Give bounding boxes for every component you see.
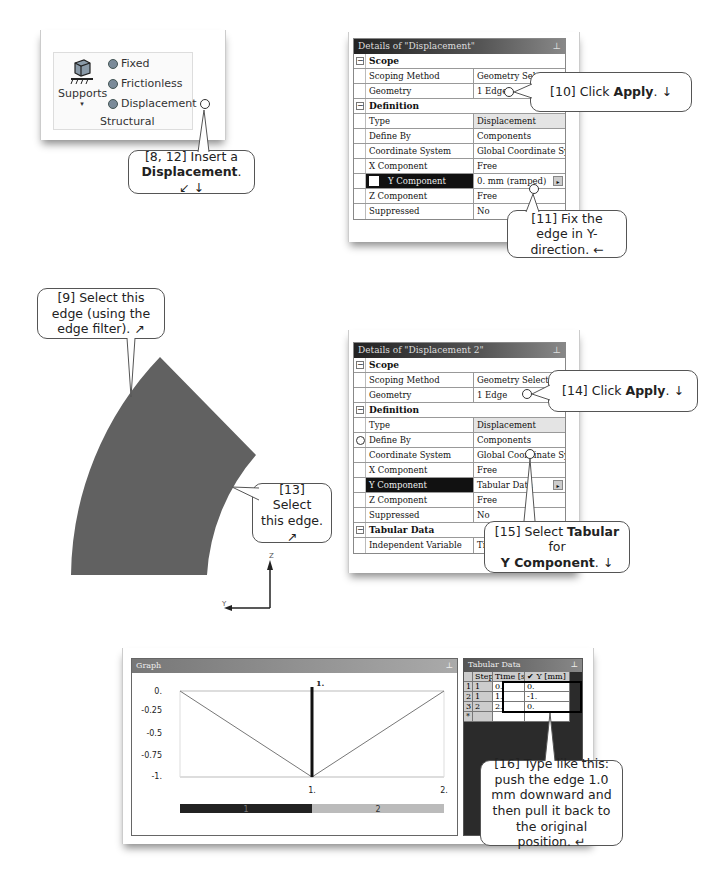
supports-icon xyxy=(68,59,96,85)
fixed-label: Fixed xyxy=(121,57,150,70)
callout-select-edge-filter: [9] Select this edge (using the edge fil… xyxy=(37,288,165,339)
svg-text:Y: Y xyxy=(221,600,227,608)
row-define-by[interactable]: Define ByComponents xyxy=(354,433,565,448)
svg-text:-0.5: -0.5 xyxy=(146,729,162,738)
ribbon-item-fixed[interactable]: Fixed xyxy=(108,57,150,70)
callout-text: [16] Type like this: push the edge 1.0 m… xyxy=(489,756,614,850)
section-definition[interactable]: −Definition xyxy=(354,403,565,418)
callout-text: [13] Select this edge. ↗ xyxy=(261,482,323,545)
callout-tail xyxy=(195,108,215,153)
checkbox[interactable] xyxy=(369,176,379,186)
dropdown-arrow-icon: ▾ xyxy=(58,100,106,108)
flyout-arrow-button[interactable]: ▸ xyxy=(553,176,563,186)
row-coordinate-system[interactable]: Coordinate SystemGlobal Coordinate Syste… xyxy=(354,144,565,159)
fixed-icon xyxy=(108,59,118,69)
callout-suffix: . ↓ xyxy=(654,84,672,99)
callout-text: [11] Fix the edge in Y-direction. ← xyxy=(516,211,618,258)
table-row-new[interactable]: * xyxy=(464,712,582,722)
svg-text:0.: 0. xyxy=(154,687,162,696)
callout-tail xyxy=(513,82,533,102)
collapse-icon[interactable]: − xyxy=(356,406,364,414)
flyout-arrow-button[interactable]: ▸ xyxy=(553,480,563,490)
svg-text:1.: 1. xyxy=(316,678,325,688)
callout-insert-displacement: [8, 12] Insert a Displacement. ↙ ↓ xyxy=(128,150,255,194)
callout-text: for xyxy=(548,539,565,554)
collapse-icon[interactable]: − xyxy=(356,361,364,369)
callout-type-tabular: [16] Type like this: push the edge 1.0 m… xyxy=(480,760,623,846)
tabular-title: Tabular Data xyxy=(468,660,521,671)
svg-text:1.: 1. xyxy=(308,786,316,795)
callout-bold: Displacement xyxy=(141,164,237,179)
graph-title-bar: Graph⊥ xyxy=(132,659,457,673)
displacement-label: Displacement xyxy=(121,97,197,110)
callout-text: [15] Select xyxy=(495,524,567,539)
pin-icon[interactable]: ⊥ xyxy=(445,661,453,671)
highlight-box xyxy=(502,681,582,713)
group-label-structural: Structural xyxy=(100,115,154,128)
callout-fix-y: [11] Fix the edge in Y-direction. ← xyxy=(507,210,627,258)
row-define-by[interactable]: Define ByComponents xyxy=(354,129,565,144)
callout-tail xyxy=(230,484,260,508)
supports-button[interactable]: Supports ▾ xyxy=(58,59,106,111)
ribbon-structural-group: Supports ▾ Fixed Frictionless Displaceme… xyxy=(53,52,193,130)
callout-bold: Y Component xyxy=(501,555,595,570)
callout-bold: Apply xyxy=(613,84,653,99)
callout-click-apply-1: [10] Click Apply. ↓ xyxy=(530,72,692,112)
frictionless-icon xyxy=(108,79,118,89)
row-type[interactable]: TypeDisplacement xyxy=(354,114,565,129)
geometry-viewport[interactable]: Z Y xyxy=(20,330,350,630)
callout-suffix: . ↓ xyxy=(595,555,613,570)
frictionless-label: Frictionless xyxy=(121,77,183,90)
section-scope[interactable]: −Scope xyxy=(354,54,565,69)
callout-tail xyxy=(531,383,551,403)
svg-text:2: 2 xyxy=(375,805,380,814)
axis-triad: Z Y xyxy=(221,552,274,611)
svg-text:-1.: -1. xyxy=(151,772,162,781)
supports-label: Supports xyxy=(58,87,106,100)
details-title-bar: Details of "Displacement 2"⊥ xyxy=(354,343,565,358)
graph-plot[interactable]: 0. -0.25 -0.5 -0.75 -1. 1. 1. 2. 1 2 xyxy=(132,673,457,835)
callout-bold: Apply xyxy=(625,383,665,398)
callout-suffix: . ↓ xyxy=(666,383,684,398)
graph-title: Graph xyxy=(136,661,161,671)
collapse-icon[interactable]: − xyxy=(356,102,364,110)
row-x-component[interactable]: X ComponentFree xyxy=(354,159,565,174)
callout-select-tabular: [15] Select Tabular for Y Component. ↓ xyxy=(484,521,630,573)
pin-icon[interactable]: ⊥ xyxy=(570,660,578,671)
collapse-icon[interactable]: − xyxy=(356,57,364,65)
callout-bold: Tabular xyxy=(567,524,619,539)
ribbon-item-frictionless[interactable]: Frictionless xyxy=(108,77,183,90)
details-title: Details of "Displacement 2" xyxy=(358,345,484,356)
callout-tail xyxy=(521,458,541,522)
svg-text:-0.25: -0.25 xyxy=(141,706,162,715)
pin-icon[interactable]: ⊥ xyxy=(553,345,561,356)
callout-tail xyxy=(543,712,557,762)
callout-text: [9] Select this edge (using the edge fil… xyxy=(46,290,156,337)
callout-text: [14] Click xyxy=(562,383,625,398)
callout-tail xyxy=(524,193,544,213)
svg-text:-0.75: -0.75 xyxy=(141,751,162,760)
row-type[interactable]: TypeDisplacement xyxy=(354,418,565,433)
callout-click-apply-2: [14] Click Apply. ↓ xyxy=(548,370,698,412)
tabular-title-bar: Tabular Data⊥ xyxy=(464,659,582,672)
callout-select-this-edge: [13] Select this edge. ↗ xyxy=(252,483,332,543)
callout-text: [8, 12] Insert a xyxy=(145,149,238,165)
collapse-icon[interactable]: − xyxy=(356,526,364,534)
svg-text:Z: Z xyxy=(269,552,274,560)
pin-icon[interactable]: ⊥ xyxy=(553,41,561,52)
ribbon-item-displacement[interactable]: Displacement xyxy=(108,97,197,110)
callout-text: [10] Click xyxy=(550,84,613,99)
details-title: Details of "Displacement" xyxy=(358,41,475,52)
svg-text:2.: 2. xyxy=(440,786,448,795)
callout-tail xyxy=(125,338,137,398)
arc-sector-body[interactable] xyxy=(71,357,256,575)
graph-panel: Graph⊥ 0. -0.25 -0.5 -0.75 -1. 1. 1. 2. … xyxy=(131,658,458,836)
section-scope[interactable]: −Scope xyxy=(354,358,565,373)
svg-text:1: 1 xyxy=(243,805,248,814)
displacement-icon xyxy=(108,99,118,109)
details-title-bar: Details of "Displacement"⊥ xyxy=(354,39,565,54)
cursor-ring xyxy=(356,436,365,445)
